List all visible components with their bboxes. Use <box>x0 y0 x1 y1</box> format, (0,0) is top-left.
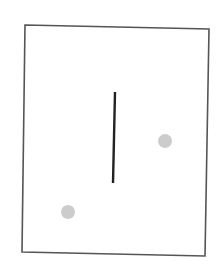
rectangle-frame <box>22 25 209 256</box>
diagram-svg <box>0 0 221 261</box>
diagram-canvas <box>0 0 221 261</box>
gray-dot-lower-left <box>61 205 75 219</box>
vertical-line <box>113 92 115 183</box>
gray-dot-upper-right <box>158 134 172 148</box>
